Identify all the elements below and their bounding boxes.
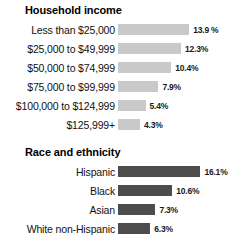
household-income-title: Household income [0, 0, 244, 20]
value-label: 5.4% [146, 101, 169, 111]
bar-track: 7.3% [118, 200, 244, 219]
bar [118, 119, 140, 130]
bar-row: Asian 7.3% [0, 200, 244, 219]
bar-track: 12.3% [118, 39, 244, 58]
bar-row: $75,000 to $99,999 7.9% [0, 77, 244, 96]
value-label: 4.3% [140, 120, 163, 130]
category-label: Less than $25,000 [0, 24, 118, 36]
bar-row: Less than $25,000 13.9 % [0, 20, 244, 39]
bar-track: 13.9 % [118, 20, 244, 39]
bar [118, 223, 150, 234]
value-label: 12.3% [181, 44, 208, 54]
bar [118, 81, 158, 92]
category-label: $25,000 to $49,999 [0, 43, 118, 55]
category-label: Hispanic [0, 166, 118, 178]
bar [118, 24, 189, 35]
household-income-chart: Household income Less than $25,000 13.9 … [0, 0, 244, 134]
value-label: 16.1% [200, 167, 227, 177]
bar [118, 166, 200, 177]
value-label: 7.9% [158, 82, 181, 92]
value-label: 10.4% [171, 63, 198, 73]
race-ethnicity-title: Race and ethnicity [0, 142, 244, 162]
bar-row: $50,000 to $74,999 10.4% [0, 58, 244, 77]
bar [118, 62, 171, 73]
value-label: 6.3% [150, 224, 173, 234]
value-label: 13.9 % [189, 25, 218, 35]
category-label: $75,000 to $99,999 [0, 81, 118, 93]
bar-row: Black 10.6% [0, 181, 244, 200]
bar-track: 7.9% [118, 77, 244, 96]
bar [118, 185, 172, 196]
bar [118, 100, 146, 111]
bar-track: 16.1% [118, 162, 244, 181]
bar-row: $100,000 to $124,999 5.4% [0, 96, 244, 115]
bar-row: White non-Hispanic 6.3% [0, 219, 244, 238]
value-label: 10.6% [172, 186, 199, 196]
bar-row: $125,999+ 4.3% [0, 115, 244, 134]
category-label: White non-Hispanic [0, 223, 118, 235]
bar-row: Hispanic 16.1% [0, 162, 244, 181]
race-ethnicity-chart: Race and ethnicity Hispanic 16.1% Black … [0, 142, 244, 238]
bar-track: 6.3% [118, 219, 244, 238]
category-label: Black [0, 185, 118, 197]
race-ethnicity-bar-list: Hispanic 16.1% Black 10.6% Asian 7.3% Wh… [0, 162, 244, 238]
bar [118, 204, 155, 215]
bar-track: 10.4% [118, 58, 244, 77]
bar [118, 43, 181, 54]
bar-track: 4.3% [118, 115, 244, 134]
category-label: $100,000 to $124,999 [0, 100, 118, 112]
value-label: 7.3% [155, 205, 178, 215]
household-income-bar-list: Less than $25,000 13.9 % $25,000 to $49,… [0, 20, 244, 134]
bar-row: $25,000 to $49,999 12.3% [0, 39, 244, 58]
category-label: $125,999+ [0, 119, 118, 131]
category-label: Asian [0, 204, 118, 216]
category-label: $50,000 to $74,999 [0, 62, 118, 74]
bar-track: 5.4% [118, 96, 244, 115]
bar-track: 10.6% [118, 181, 244, 200]
